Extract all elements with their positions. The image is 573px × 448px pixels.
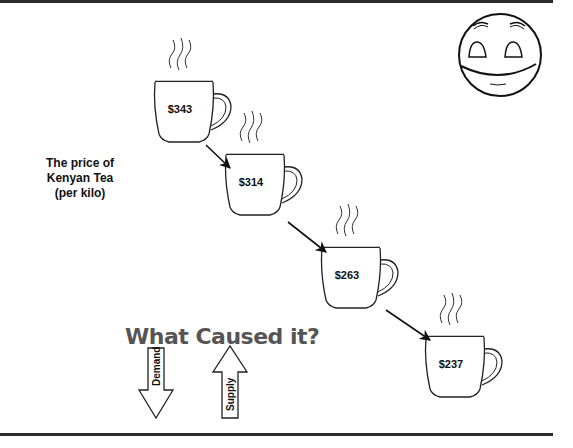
price-cup-3: $263	[317, 269, 377, 281]
cup-2	[226, 111, 303, 215]
cup-3	[322, 204, 399, 308]
price-cup-1: $343	[150, 103, 210, 115]
price-cup-4: $237	[421, 358, 481, 370]
price-cup-2: $314	[221, 176, 281, 188]
supply-label: Supply	[225, 378, 236, 411]
cup-1	[155, 38, 232, 142]
cup-4	[426, 293, 503, 397]
demand-label: Demand	[151, 347, 162, 386]
what-caused-it-heading: What Caused it?	[125, 324, 319, 349]
cups-and-arrows	[0, 0, 573, 448]
